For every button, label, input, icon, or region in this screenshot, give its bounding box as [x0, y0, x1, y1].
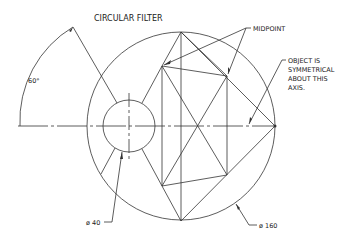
radial-line [101, 148, 115, 174]
edge [162, 66, 227, 76]
technical-drawing: CIRCULAR FILTER 60° MIDPOINT OBJECT IS S… [0, 0, 349, 243]
angle-extension-line [73, 27, 117, 103]
note-line-4: AXIS. [288, 84, 305, 92]
edge [162, 186, 181, 221]
arrowhead [249, 117, 252, 124]
arrowhead [228, 67, 230, 74]
note-line-3: ABOUT THIS [288, 75, 328, 83]
edge [181, 126, 275, 221]
axis-leader [249, 60, 286, 124]
edge [162, 32, 181, 66]
note-line-1: OBJECT IS [288, 57, 320, 65]
edge [181, 32, 275, 126]
title: CIRCULAR FILTER [94, 14, 163, 23]
edge [162, 66, 227, 175]
small-diameter-label: ø 40 [86, 219, 100, 227]
edge [162, 76, 227, 186]
midpoint-label: MIDPOINT [253, 25, 285, 33]
radial-line [142, 66, 162, 103]
midpoint-leader [164, 28, 251, 65]
small-diameter-leader [104, 152, 122, 222]
large-diameter-label: ø 160 [259, 222, 277, 230]
radial-line [142, 149, 162, 186]
note-line-2: SYMMETRICAL [288, 66, 335, 74]
angle-label: 60° [28, 77, 40, 85]
vertex-dot [274, 125, 277, 128]
